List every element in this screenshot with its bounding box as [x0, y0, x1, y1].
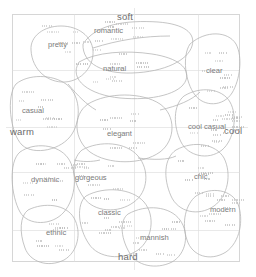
- keyword-speck: [198, 167, 205, 169]
- keyword-speck: [44, 177, 51, 179]
- cluster-connector-lower: [74, 160, 100, 162]
- keyword-speck: [199, 173, 209, 175]
- keyword-speck: [23, 182, 34, 184]
- keyword-speck: [205, 52, 212, 54]
- keyword-speck: [22, 91, 34, 93]
- keyword-speck: [38, 106, 45, 108]
- keyword-speck: [110, 117, 122, 119]
- keyword-speck: [232, 202, 241, 204]
- keyword-speck: [190, 132, 199, 134]
- keyword-speck: [111, 38, 123, 40]
- keyword-speck: [113, 188, 123, 190]
- keyword-speck: [133, 242, 139, 244]
- keyword-speck: [206, 193, 215, 195]
- keyword-speck: [206, 195, 214, 197]
- cluster-connector-top: [93, 36, 170, 48]
- keyword-speck: [58, 42, 68, 44]
- keyword-speck: [72, 42, 81, 44]
- keyword-speck: [65, 51, 71, 53]
- keyword-speck: [131, 113, 140, 115]
- keyword-speck: [232, 199, 244, 201]
- keyword-speck: [100, 119, 108, 121]
- keyword-speck: [131, 253, 138, 255]
- keyword-speck: [49, 223, 59, 225]
- keyword-speck: [178, 160, 185, 162]
- keyword-speck: [24, 194, 34, 196]
- keyword-speck: [220, 77, 231, 79]
- keyword-speck: [36, 240, 43, 242]
- keyword-speck: [55, 245, 63, 247]
- cluster-dynamic: [12, 146, 74, 223]
- keyword-speck: [228, 111, 236, 113]
- keyword-speck: [205, 220, 216, 222]
- keyword-speck: [110, 63, 121, 65]
- chart-canvas: [0, 0, 256, 277]
- keyword-speck: [47, 31, 59, 33]
- keyword-speck: [77, 163, 86, 165]
- keyword-speck: [104, 217, 111, 219]
- cluster-label-cool-casual: cool casual: [188, 122, 226, 131]
- keyword-speck: [136, 237, 147, 239]
- keyword-speck: [172, 221, 180, 223]
- keyword-speck: [73, 31, 80, 33]
- keyword-speck: [212, 140, 223, 142]
- keyword-speck: [213, 134, 222, 136]
- keyword-speck: [95, 40, 104, 42]
- keyword-speck: [225, 207, 232, 209]
- keyword-speck: [120, 199, 131, 201]
- keyword-speck: [223, 86, 233, 88]
- axis-label-soft: soft: [117, 11, 133, 22]
- keyword-speck: [41, 163, 47, 165]
- keyword-speck: [105, 229, 112, 231]
- keyword-speck: [195, 192, 204, 194]
- keyword-speck: [221, 195, 229, 197]
- keyword-speck: [211, 129, 218, 131]
- keyword-speck: [83, 41, 92, 43]
- keyword-speck: [46, 117, 55, 119]
- keyword-speck: [52, 199, 59, 201]
- keyword-speck: [232, 129, 240, 131]
- keyword-speck: [232, 116, 242, 118]
- keyword-speck: [215, 60, 224, 62]
- keyword-speck: [47, 126, 57, 128]
- keyword-speck: [119, 221, 132, 223]
- cluster-classic: [80, 190, 152, 257]
- keyword-speck: [189, 107, 198, 109]
- keyword-speck: [164, 228, 176, 230]
- keyword-speck: [133, 36, 143, 38]
- keyword-speck: [201, 145, 210, 147]
- axis-label-warm: warm: [10, 126, 34, 137]
- keyword-speck: [123, 18, 130, 20]
- keyword-speck: [156, 253, 165, 255]
- cluster-casual: [10, 77, 78, 151]
- keyword-speck: [219, 52, 227, 54]
- keyword-speck: [200, 215, 209, 217]
- keyword-speck: [111, 226, 119, 228]
- keyword-speck: [54, 118, 63, 120]
- keyword-speck: [119, 53, 127, 55]
- keyword-speck: [112, 80, 123, 82]
- keyword-speck: [116, 68, 122, 70]
- keyword-speck: [59, 249, 69, 251]
- keyword-speck: [120, 225, 133, 227]
- keyword-speck: [93, 81, 100, 83]
- keyword-speck: [139, 249, 148, 251]
- keyword-speck: [99, 232, 111, 234]
- keyword-speck: [80, 222, 89, 224]
- keyword-speck: [224, 74, 232, 76]
- keyword-speck: [202, 70, 214, 72]
- keyword-speck: [204, 178, 211, 180]
- keyword-speck: [42, 25, 52, 27]
- keyword-speck: [57, 163, 66, 165]
- keyword-speck: [136, 62, 149, 64]
- keyword-speck: [132, 27, 144, 29]
- keyword-speck: [129, 147, 137, 149]
- keyword-speck: [119, 227, 126, 229]
- keyword-speck: [185, 179, 194, 181]
- keyword-speck: [93, 49, 101, 51]
- keyword-speck: [116, 23, 129, 25]
- keyword-speck: [130, 120, 136, 122]
- cluster-connector-left: [68, 84, 96, 110]
- keyword-speck: [223, 132, 230, 134]
- grid-lines: [6, 8, 248, 270]
